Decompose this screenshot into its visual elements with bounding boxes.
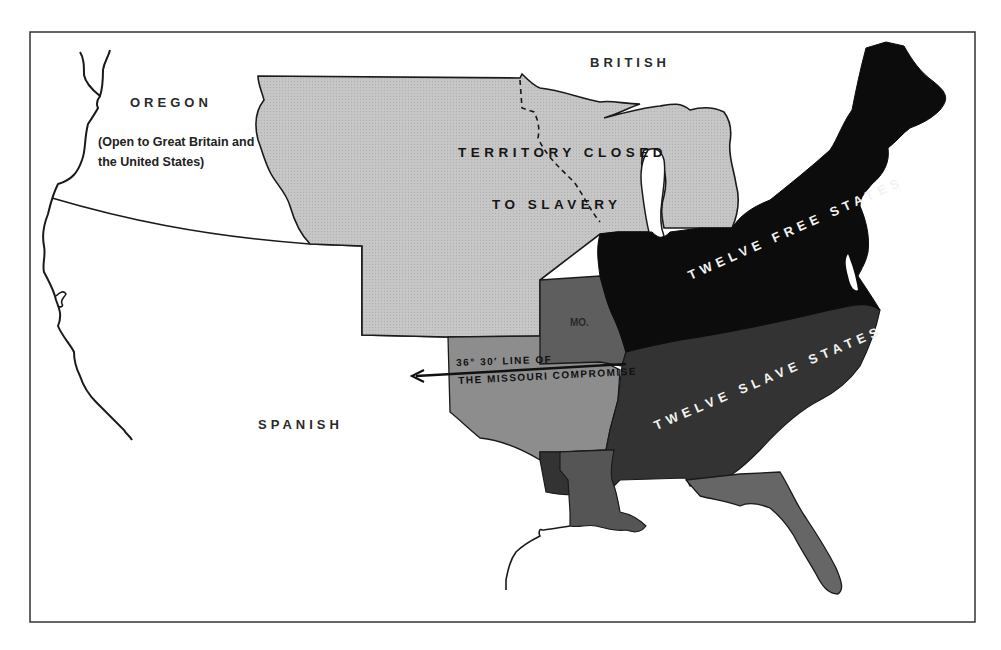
- label-british: BRITISH: [590, 56, 670, 69]
- label-territory-closed-line2: TO SLAVERY: [492, 198, 622, 212]
- label-territory-closed-line1: TERRITORY CLOSED: [458, 146, 667, 160]
- label-oregon: OREGON: [130, 96, 212, 109]
- label-missouri: MO.: [570, 318, 589, 328]
- label-spanish: SPANISH: [258, 418, 343, 431]
- map-container: BRITISH OREGON (Open to Great Britain an…: [0, 0, 1001, 650]
- label-oregon-note: (Open to Great Britain and the United St…: [98, 132, 268, 172]
